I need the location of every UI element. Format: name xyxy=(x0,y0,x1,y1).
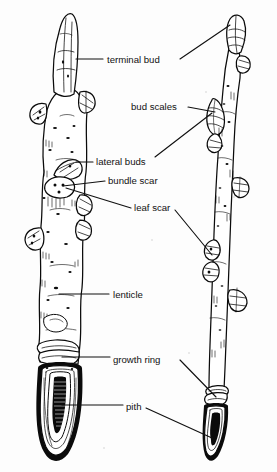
label-growth-ring: growth ring xyxy=(113,354,160,365)
lenticel xyxy=(56,213,60,215)
label-bud-scales: bud scales xyxy=(131,101,177,112)
lenticel xyxy=(54,287,58,289)
label-lateral-buds: lateral buds xyxy=(96,156,146,167)
lenticel xyxy=(66,137,70,139)
lenticel xyxy=(73,125,76,127)
left-twig-bark-bump xyxy=(44,314,68,332)
lenticel xyxy=(46,299,49,301)
left-growth-ring xyxy=(37,340,79,365)
label-pith: pith xyxy=(126,401,141,412)
lenticel xyxy=(66,307,69,309)
right-bud-upper xyxy=(236,56,250,73)
right-terminal-bud xyxy=(227,15,246,54)
lenticel xyxy=(53,127,57,129)
lenticel xyxy=(68,271,71,273)
lenticel xyxy=(43,197,46,199)
left-lateral-bud-lower-right xyxy=(76,220,92,240)
lenticel xyxy=(50,261,53,263)
bundle-scar-dot xyxy=(54,184,57,187)
label-leaf-scar: leaf scar xyxy=(134,202,171,213)
lenticel xyxy=(64,243,68,245)
lenticel xyxy=(70,151,73,153)
label-lenticle: lenticle xyxy=(113,289,143,300)
lenticel xyxy=(46,231,49,233)
label-terminal-bud: terminal bud xyxy=(107,54,160,65)
lenticel xyxy=(48,149,51,151)
label-bundle-scar: bundle scar xyxy=(108,175,158,186)
left-lateral-bud-mid xyxy=(76,195,92,216)
bundle-scar-dot xyxy=(58,191,61,194)
twig-anatomy-figure: terminal bud bud scales lateral buds bun… xyxy=(0,0,277,472)
